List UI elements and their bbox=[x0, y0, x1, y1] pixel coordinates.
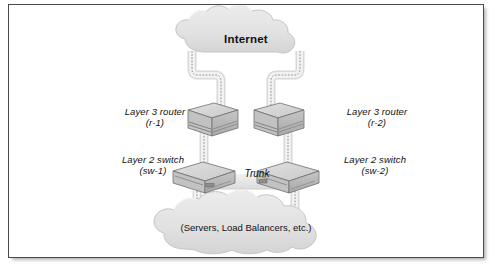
figure-frame: Internet Layer 3 router (r-1) Layer 3 ro… bbox=[8, 4, 484, 258]
router-left-label: Layer 3 router (r-1) bbox=[105, 107, 205, 129]
router-right-label-line2: (r-2) bbox=[327, 118, 427, 129]
trunk-link-label: Trunk bbox=[227, 168, 287, 180]
internet-cloud-label: Internet bbox=[9, 33, 483, 46]
device-router-right[interactable] bbox=[254, 103, 304, 136]
router-right-label: Layer 3 router (r-2) bbox=[327, 107, 427, 129]
router-left-label-line2: (r-1) bbox=[105, 118, 205, 129]
switch-left-label-line2: (sw-1) bbox=[101, 166, 205, 177]
link-internet-r1 bbox=[192, 51, 221, 109]
servers-label-text: (Servers, Load Balancers, etc.) bbox=[9, 223, 483, 234]
trunk-label-text: Trunk bbox=[227, 168, 287, 180]
internet-label-text: Internet bbox=[224, 33, 268, 45]
switch-right-label-line2: (sw-2) bbox=[323, 166, 427, 177]
servers-cloud-label: (Servers, Load Balancers, etc.) bbox=[9, 223, 483, 234]
network-diagram: Internet Layer 3 router (r-1) Layer 3 ro… bbox=[9, 5, 483, 257]
switch-left-label: Layer 2 switch (sw-1) bbox=[101, 155, 205, 177]
link-internet-r2 bbox=[271, 51, 300, 109]
switch-right-label: Layer 2 switch (sw-2) bbox=[323, 155, 427, 177]
